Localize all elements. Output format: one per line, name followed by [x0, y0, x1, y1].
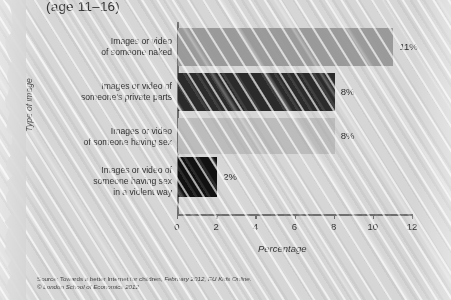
- x-tick-label: 6: [292, 221, 297, 232]
- bar-private-parts[interactable]: [178, 73, 335, 111]
- bar-violent-sex[interactable]: [178, 157, 217, 197]
- x-tick-label: 4: [253, 221, 258, 232]
- x-tick: [255, 214, 256, 219]
- x-tick: [295, 214, 296, 219]
- x-tick-label: 12: [407, 221, 418, 232]
- category-label-violent-sex: Images or video ofsomeone having sexin a…: [40, 165, 172, 199]
- chart-content: (age 11–16) Type of image Images or vide…: [0, 0, 451, 300]
- bar-value-having-sex: 8%: [341, 130, 355, 141]
- category-label-private-parts: Images or video ofsomeone's private part…: [40, 81, 172, 103]
- x-tick-label: 2: [214, 221, 219, 232]
- x-tick: [177, 214, 178, 219]
- category-label-having-sex: Images or videoof someone having sex: [40, 126, 172, 148]
- category-labels: Images or videoof someone naked Images o…: [38, 22, 172, 214]
- bar-value-private-parts: 8%: [341, 86, 355, 97]
- x-tick: [412, 214, 413, 219]
- source-line-1: Source: Towards a better Internet for ch…: [37, 275, 252, 283]
- chart-page: (age 11–16) Type of image Images or vide…: [0, 0, 451, 300]
- category-label-naked: Images or videoof someone naked: [40, 36, 172, 58]
- x-tick: [334, 214, 335, 219]
- bar-naked[interactable]: [178, 28, 393, 66]
- source-note: Source: Towards a better Internet for ch…: [37, 275, 252, 290]
- x-tick: [373, 214, 374, 219]
- plot-area: 11% 8% 8% 2% 024681012: [177, 22, 412, 214]
- x-tick-label: 0: [174, 221, 179, 232]
- bar-having-sex[interactable]: [178, 118, 335, 154]
- x-tick-label: 10: [368, 221, 379, 232]
- bar-value-violent-sex: 2%: [223, 171, 237, 182]
- bar-value-naked: 11%: [399, 41, 417, 52]
- chart-subtitle: (age 11–16): [46, 0, 120, 14]
- y-axis-label: Type of image: [24, 50, 34, 160]
- x-tick: [216, 214, 217, 219]
- source-line-2: © London School of Economics 2012: [37, 283, 252, 291]
- x-axis-label: Percentage: [258, 243, 307, 254]
- x-tick-label: 8: [331, 221, 336, 232]
